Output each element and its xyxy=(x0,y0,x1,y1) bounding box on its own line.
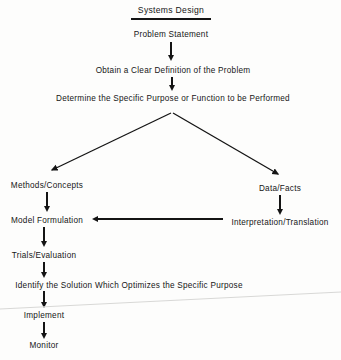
node-implement: Implement xyxy=(24,311,64,321)
node-determine-purpose: Determine the Specific Purpose or Functi… xyxy=(56,94,290,104)
arrow-methods-to-model xyxy=(43,192,51,212)
diagram-title: Systems Design xyxy=(138,5,204,15)
arrow-interpretation-to-model xyxy=(92,214,223,224)
node-problem-statement: Problem Statement xyxy=(134,30,208,40)
node-methods-concepts: Methods/Concepts xyxy=(11,181,83,191)
arrow-determine-to-methods xyxy=(52,113,171,170)
arrow-obtain-to-determine xyxy=(168,77,176,91)
flowchart-page: Systems Design Problem Statement Obtain … xyxy=(0,0,341,360)
node-data-facts: Data/Facts xyxy=(259,184,301,194)
arrow-trials-to-identify xyxy=(40,262,48,278)
node-identify-solution: Identify the Solution Which Optimizes th… xyxy=(15,281,242,291)
arrow-identify-to-implement xyxy=(40,291,48,308)
node-model-formulation: Model Formulation xyxy=(11,216,83,226)
arrow-model-to-trials xyxy=(40,227,48,247)
arrow-determine-to-data xyxy=(173,113,278,174)
node-obtain-definition: Obtain a Clear Definition of the Problem xyxy=(96,66,251,76)
arrow-data-to-interpretation xyxy=(276,195,284,215)
node-monitor: Monitor xyxy=(29,341,58,351)
arrow-implement-to-monitor xyxy=(40,322,48,339)
node-trials-evaluation: Trials/Evaluation xyxy=(12,251,76,261)
arrow-problem-to-obtain xyxy=(167,42,175,61)
node-interpretation-translation: Interpretation/Translation xyxy=(231,218,328,228)
title-underline xyxy=(131,18,211,20)
